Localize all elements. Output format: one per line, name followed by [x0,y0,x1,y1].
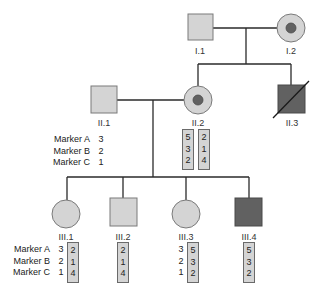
haplotype-II-1: 3 2 1 [96,134,106,169]
carrier-dot-icon [193,95,203,105]
marker-names-III: Marker A Marker B Marker C [6,244,50,279]
haplotype-box-II-2-a: 5 3 2 [182,129,194,170]
label-II-3: II.3 [277,118,307,128]
haplotype-box-III-4: 5 3 2 [243,242,255,283]
label-I-1: I.1 [185,46,215,56]
individual-I-1-square [188,14,213,40]
label-III-4: III.4 [234,232,264,242]
haplotype-box-III-3: 5 3 2 [187,242,199,283]
label-III-2: III.2 [108,232,138,242]
individual-III-3-circle [172,200,200,228]
individual-II-1-square [91,86,117,113]
haplotype-III-1-paternal: 3 2 1 [56,244,66,279]
haplotype-box-III-1: 2 1 4 [67,242,79,283]
haplotype-box-II-2-b: 2 1 4 [198,129,210,170]
haplotype-III-3-paternal: 3 2 1 [176,244,186,279]
individual-III-2-square [110,198,137,226]
individual-III-4-square [235,198,262,226]
label-III-1: III.1 [51,232,81,242]
label-II-1: II.1 [89,118,119,128]
pedigree-diagram: I.1 I.2 II.1 II.2 II.3 III.1 III.2 III.3… [0,0,327,295]
haplotype-box-III-2: 2 1 4 [117,242,129,283]
individual-III-1-circle [52,200,80,228]
label-I-2: I.2 [276,46,306,56]
label-III-3: III.3 [171,232,201,242]
label-II-2: II.2 [183,118,213,128]
carrier-dot-icon [286,23,296,33]
marker-names-II-1: Marker A Marker B Marker C [48,134,90,169]
